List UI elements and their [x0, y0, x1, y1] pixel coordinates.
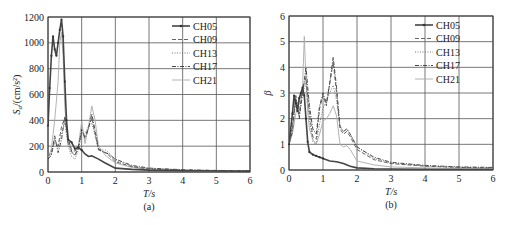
data-marker — [319, 156, 321, 158]
data-marker — [54, 48, 56, 50]
x-tick-label: 5 — [214, 175, 219, 186]
y-tick-label: 3 — [280, 88, 285, 99]
data-marker — [60, 18, 62, 20]
data-marker — [288, 143, 290, 145]
legend-label-ch13: CH13 — [193, 48, 217, 59]
data-marker — [298, 97, 300, 99]
data-marker — [291, 112, 293, 114]
data-marker — [293, 94, 295, 96]
y-tick-label: 400 — [29, 115, 44, 126]
chart-panel-b: 01234560123456T/s(b)βCH05CH09CH13CH17CH2… — [262, 11, 496, 212]
y-axis-label: Sa/(cm/s²) — [11, 75, 24, 115]
x-tick-label: 3 — [389, 173, 394, 184]
grid — [289, 16, 493, 170]
x-tick-label: 3 — [147, 175, 152, 186]
data-marker — [302, 87, 304, 89]
data-marker — [305, 118, 307, 120]
legend-label-ch17: CH17 — [436, 60, 460, 71]
data-marker — [312, 154, 314, 156]
y-tick-label: 1000 — [24, 37, 44, 48]
y-tick-label: 4 — [280, 62, 285, 73]
x-tick-label: 4 — [423, 173, 428, 184]
data-marker — [81, 149, 83, 151]
x-tick-label: 5 — [457, 173, 462, 184]
data-marker — [64, 80, 66, 82]
y-tick-label: 5 — [280, 36, 285, 47]
x-tick-label: 2 — [113, 175, 118, 186]
legend-label-ch09: CH09 — [193, 34, 217, 45]
legend-label-ch13: CH13 — [436, 47, 460, 58]
data-marker — [67, 139, 69, 141]
y-tick-label: 6 — [280, 11, 285, 22]
data-marker — [62, 35, 64, 37]
data-marker — [59, 29, 61, 31]
data-marker — [57, 42, 59, 44]
x-tick-label: 2 — [355, 173, 360, 184]
x-tick-label: 6 — [491, 173, 496, 184]
y-tick-label: 1200 — [24, 12, 44, 23]
data-marker — [65, 119, 67, 121]
data-marker — [303, 94, 305, 96]
data-marker — [77, 146, 79, 148]
figure: 0123456020040060080010001200T/s(a)Sa/(cm… — [0, 0, 505, 225]
data-marker — [322, 157, 324, 159]
data-marker — [300, 92, 302, 94]
legend-label-ch09: CH09 — [436, 33, 460, 44]
data-marker — [52, 35, 54, 37]
legend-label-ch21: CH21 — [436, 74, 460, 85]
x-tick-label: 1 — [321, 173, 326, 184]
data-marker — [295, 102, 297, 104]
x-tick-label: 0 — [287, 173, 292, 184]
data-marker — [74, 148, 76, 150]
data-marker — [296, 110, 298, 112]
data-marker — [315, 155, 317, 157]
chart-panel-a: 0123456020040060080010001200T/s(a)Sa/(cm… — [11, 12, 253, 214]
y-tick-label: 2 — [280, 113, 285, 124]
legend: CH05CH09CH13CH17CH21 — [172, 21, 217, 86]
x-tick-label: 0 — [46, 175, 51, 186]
x-tick-label: 4 — [180, 175, 185, 186]
data-marker — [47, 124, 49, 126]
x-axis-label: T/s — [143, 188, 155, 199]
data-marker — [50, 55, 52, 57]
legend: CH05CH09CH13CH17CH21 — [415, 20, 460, 85]
y-tick-label: 200 — [29, 141, 44, 152]
data-marker — [307, 141, 309, 143]
data-marker — [308, 151, 310, 153]
legend-label-ch21: CH21 — [193, 75, 217, 86]
y-tick-label: 0 — [280, 165, 285, 176]
x-tick-label: 1 — [79, 175, 84, 186]
x-tick-label: 6 — [248, 175, 253, 186]
panel-caption: (a) — [143, 201, 154, 213]
data-marker — [55, 55, 57, 57]
data-marker — [70, 141, 72, 143]
panel-caption: (b) — [385, 199, 397, 211]
legend-label-ch05: CH05 — [436, 20, 460, 31]
y-tick-label: 800 — [29, 63, 44, 74]
y-tick-label: 1 — [280, 139, 285, 150]
legend-label-ch05: CH05 — [193, 21, 217, 32]
x-axis-label: T/s — [385, 186, 397, 197]
data-marker — [49, 87, 51, 89]
y-axis-label: β — [262, 90, 273, 96]
y-tick-label: 600 — [29, 89, 44, 100]
legend-label-ch17: CH17 — [193, 61, 217, 72]
y-tick-label: 0 — [39, 167, 44, 178]
